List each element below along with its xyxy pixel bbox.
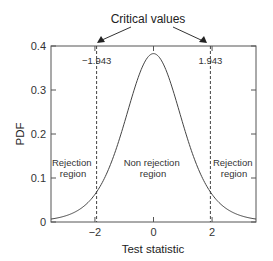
critical-value-label-right: 1.943 (199, 55, 223, 66)
x-tick-label: 2 (209, 226, 215, 238)
y-tick-label: 0.1 (31, 172, 46, 184)
left-region-label: Rejection region (52, 157, 94, 179)
y-tick-label: 0.2 (31, 128, 46, 140)
annotation-arrow-right (173, 27, 207, 43)
pdf-chart: −1.943 1.943 −202 00.10.20.30.4 Test sta… (0, 0, 273, 261)
x-tick-label: 0 (150, 226, 156, 238)
x-axis-ticks: −202 (89, 46, 215, 238)
y-tick-label: 0.3 (31, 84, 46, 96)
y-axis-title: PDF (14, 123, 26, 146)
critical-values-annotation: Critical values (111, 12, 186, 26)
y-tick-label: 0 (40, 216, 46, 228)
annotation-arrow-left (97, 27, 131, 43)
middle-region-label: Non rejection region (124, 157, 183, 179)
right-region-label: Rejection region (213, 157, 255, 179)
plot-frame (51, 46, 256, 222)
y-tick-label: 0.4 (31, 40, 46, 52)
pdf-curve (51, 54, 256, 219)
x-axis-title: Test statistic (122, 243, 185, 255)
y-axis-ticks: 00.10.20.30.4 (31, 40, 256, 228)
critical-value-label-left: −1.943 (82, 55, 111, 66)
x-tick-label: −2 (89, 226, 102, 238)
